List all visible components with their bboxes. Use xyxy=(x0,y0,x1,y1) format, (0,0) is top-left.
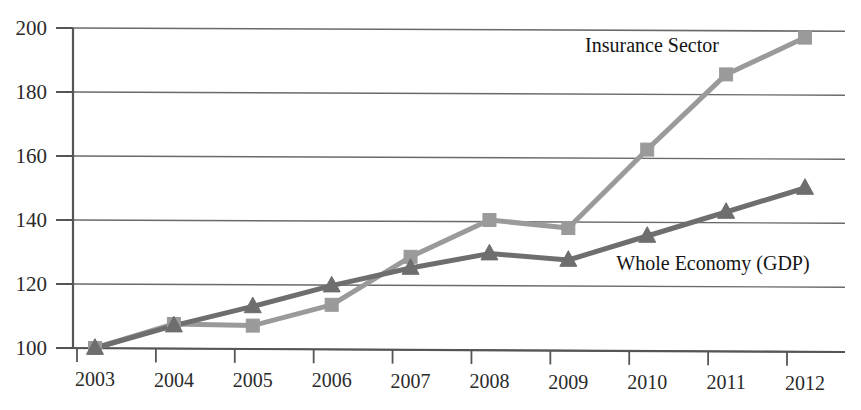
x-axis-label: 2010 xyxy=(627,371,667,393)
x-axis-label: 2005 xyxy=(233,369,273,391)
x-axis-label: 2012 xyxy=(785,372,825,394)
y-axis-label: 100 xyxy=(16,336,48,360)
x-axis-label: 2008 xyxy=(469,370,509,392)
series-label-insurance-sector: Insurance Sector xyxy=(585,34,719,56)
line-chart: 100120140160180200 200320042005200620072… xyxy=(0,0,861,410)
y-axis-label: 120 xyxy=(16,272,48,296)
data-point-marker xyxy=(562,222,575,235)
x-axis-label: 2006 xyxy=(312,369,352,391)
data-point-marker xyxy=(641,143,654,156)
x-axis-label: 2011 xyxy=(706,371,745,393)
data-point-marker xyxy=(246,319,259,332)
data-point-marker xyxy=(720,68,733,81)
x-axis-label: 2009 xyxy=(548,371,588,393)
data-point-marker xyxy=(483,214,496,227)
data-point-marker xyxy=(325,298,338,311)
data-point-marker xyxy=(799,31,812,44)
y-axis-label: 200 xyxy=(16,16,48,40)
y-axis-label: 180 xyxy=(16,80,48,104)
x-axis-label: 2007 xyxy=(391,370,431,392)
x-axis-label: 2003 xyxy=(75,368,115,390)
y-axis-label: 140 xyxy=(16,208,48,232)
x-axis-label: 2004 xyxy=(154,369,194,391)
y-axis-label: 160 xyxy=(16,144,48,168)
chart-canvas: 100120140160180200 200320042005200620072… xyxy=(0,0,861,410)
series-label-whole-economy: Whole Economy (GDP) xyxy=(616,252,809,275)
